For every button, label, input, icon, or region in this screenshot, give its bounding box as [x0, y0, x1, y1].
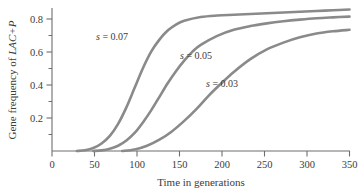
svg-text:Gene frequency of LAC+P: Gene frequency of LAC+P — [6, 20, 18, 139]
y-axis-title-italic: LAC+P — [6, 20, 18, 56]
x-tick-label-5: 250 — [257, 159, 273, 170]
y-axis-ticks — [47, 19, 53, 135]
x-tick-label-1: 50 — [89, 159, 100, 170]
x-tick-label-4: 200 — [214, 159, 230, 170]
curve-s-0-03 — [122, 30, 349, 151]
curve-annotation-s-0-05: s = 0.05 — [180, 50, 212, 61]
curve-annotation-s-0-07: s = 0.07 — [96, 31, 128, 42]
x-tick-label-0: 0 — [49, 159, 54, 170]
chart-figure: 0.8 0.6 0.4 0.2 0 50 100 150 200 250 300… — [0, 0, 362, 192]
x-tick-label-3: 150 — [172, 159, 188, 170]
curve-annotation-s-0-03: s = 0.03 — [206, 78, 238, 89]
y-axis-title: Gene frequency of LAC+P — [6, 20, 18, 139]
x-tick-label-2: 100 — [129, 159, 145, 170]
y-axis-title-plain: Gene frequency of — [6, 55, 18, 140]
y-tick-label-2: 0.4 — [30, 80, 44, 91]
x-tick-label-6: 300 — [299, 159, 315, 170]
gene-frequency-line-chart: 0.8 0.6 0.4 0.2 0 50 100 150 200 250 300… — [0, 0, 362, 192]
x-axis-title: Time in generations — [157, 176, 245, 188]
y-tick-label-1: 0.6 — [30, 47, 43, 58]
y-tick-label-3: 0.2 — [30, 113, 43, 124]
x-tick-label-7: 350 — [342, 159, 358, 170]
y-tick-label-0: 0.8 — [30, 14, 43, 25]
